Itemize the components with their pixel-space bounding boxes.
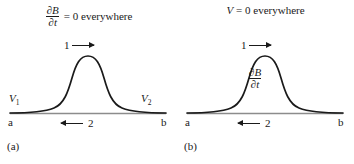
panel-a-curve-area: 1 V1 V2 a b 2 (a) bbox=[0, 0, 177, 164]
panel-a-caption: (a) bbox=[7, 141, 19, 152]
path-2-number: 2 bbox=[265, 118, 271, 129]
panel-a-path1-label: 1 bbox=[64, 40, 94, 51]
v1-symbol: V bbox=[9, 92, 16, 104]
endpoint-b-label: b bbox=[161, 117, 167, 128]
fraction-denominator: ∂t bbox=[249, 78, 262, 90]
panel-a: ∂B ∂t = 0 everywhere 1 V1 V2 bbox=[0, 0, 177, 164]
panel-b-caption: (b) bbox=[184, 141, 197, 152]
path-2-number: 2 bbox=[88, 118, 94, 129]
panel-b-inner-dbdt-label: ∂B ∂t bbox=[247, 67, 263, 90]
left-potential-label: V1 bbox=[9, 93, 19, 107]
dbdt-fraction: ∂B ∂t bbox=[247, 67, 263, 90]
panel-a-path2-label: 2 bbox=[61, 118, 94, 129]
arrow-right-icon bbox=[249, 42, 271, 50]
bell-curve-path-1 bbox=[187, 56, 343, 113]
panel-b-path1-label: 1 bbox=[241, 40, 271, 51]
physics-figure: ∂B ∂t = 0 everywhere 1 V1 V2 bbox=[0, 0, 354, 164]
panel-b: V = 0 everywhere 1 ∂B ∂t a b bbox=[177, 0, 354, 164]
v2-symbol: V bbox=[141, 92, 148, 104]
right-potential-label: V2 bbox=[141, 93, 151, 107]
fraction-numerator: ∂B bbox=[247, 67, 263, 78]
arrow-left-icon bbox=[238, 120, 260, 128]
arrow-left-icon bbox=[61, 120, 83, 128]
path-1-number: 1 bbox=[241, 40, 247, 51]
endpoint-a-label: a bbox=[185, 117, 190, 128]
panel-b-svg bbox=[177, 0, 354, 164]
path-1-number: 1 bbox=[64, 40, 70, 51]
panel-b-path2-label: 2 bbox=[238, 118, 271, 129]
arrow-right-icon bbox=[72, 42, 94, 50]
v1-subscript: 1 bbox=[16, 98, 20, 107]
panel-a-svg bbox=[0, 0, 177, 164]
endpoint-a-label: a bbox=[8, 117, 13, 128]
panel-b-curve-area: 1 ∂B ∂t a b 2 (b) bbox=[177, 0, 354, 164]
endpoint-b-label: b bbox=[338, 117, 344, 128]
v2-subscript: 2 bbox=[148, 98, 152, 107]
